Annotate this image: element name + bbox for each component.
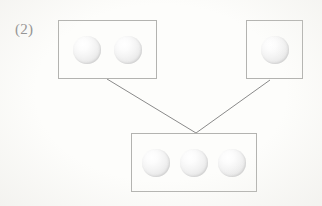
item-number-label: (2) [15, 20, 33, 38]
left-connector-line [107, 79, 196, 133]
group-box-bottom-result [131, 133, 257, 192]
sphere [114, 36, 142, 64]
sphere [218, 149, 246, 177]
right-connector-line [196, 80, 270, 133]
worksheet-diagram: (2) [0, 0, 322, 206]
sphere-row-bottom-result [132, 134, 256, 191]
sphere-row-top-right [247, 21, 302, 78]
sphere-row-top-left [59, 21, 156, 78]
sphere [261, 36, 289, 64]
group-box-top-left [58, 20, 157, 79]
sphere [180, 149, 208, 177]
sphere [73, 36, 101, 64]
sphere [142, 149, 170, 177]
group-box-top-right [246, 20, 303, 79]
